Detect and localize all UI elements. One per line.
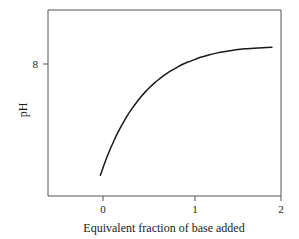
y-axis-title: pH [16,102,30,117]
y-tick-label-8: 8 [33,58,39,70]
chart-figure: 0 1 2 8 Equivalent fraction of base adde… [0,0,299,239]
ph-titration-curve [100,47,272,175]
titration-curve-chart: 0 1 2 8 Equivalent fraction of base adde… [0,0,299,239]
x-tick-label-1: 1 [192,203,198,215]
x-tick-label-2: 2 [278,203,284,215]
x-tick-label-0: 0 [100,203,106,215]
x-axis-title: Equivalent fraction of base added [83,221,244,235]
